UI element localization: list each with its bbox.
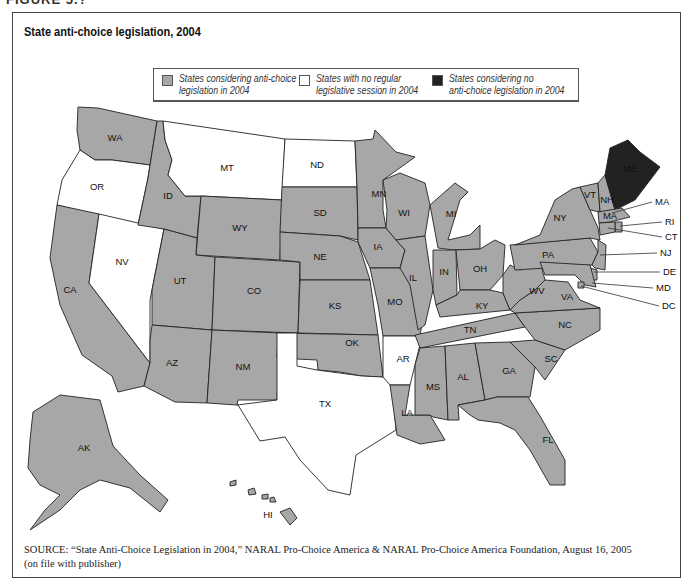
callout-label-ri: RI	[665, 216, 675, 227]
state-label-al: AL	[457, 371, 469, 382]
state-label-ms: MS	[426, 381, 440, 392]
state-hi-island	[248, 488, 256, 495]
state-label-mn: MN	[372, 188, 387, 199]
state-label-ks: KS	[329, 300, 342, 311]
state-label-va: VA	[561, 291, 574, 302]
source-text: “State Anti-Choice Legislation in 2004,”…	[68, 544, 632, 555]
state-label-ok: OK	[345, 337, 359, 348]
us-map: WAORCANVIDMTWYUTCOAZNMNDSDNEKSOKTXMNIAMO…	[0, 0, 694, 587]
state-label-me: ME	[623, 163, 637, 174]
state-label-tn: TN	[464, 324, 477, 335]
state-label-ak: AK	[78, 442, 91, 453]
state-label-oh: OH	[473, 263, 487, 274]
state-label-or: OR	[90, 181, 104, 192]
callout-line-dc	[581, 286, 659, 306]
state-label-in: IN	[439, 266, 449, 277]
state-label-ar: AR	[396, 353, 409, 364]
state-label-ma: MA	[603, 210, 618, 221]
callout-label-de: DE	[663, 266, 676, 277]
callout-line-ct	[608, 228, 662, 237]
state-mt	[163, 121, 285, 200]
state-label-ut: UT	[174, 275, 187, 286]
callout-line-md	[592, 283, 653, 288]
state-label-ky: KY	[476, 300, 489, 311]
state-label-mt: MT	[220, 162, 234, 173]
state-label-nh: NH	[600, 194, 614, 205]
state-label-wy: WY	[232, 222, 248, 233]
source-prefix: SOURCE:	[24, 544, 68, 555]
state-label-wv: WV	[529, 285, 545, 296]
state-label-sd: SD	[313, 207, 326, 218]
state-label-fl: FL	[542, 434, 553, 445]
state-label-wa: WA	[108, 132, 124, 143]
state-label-nd: ND	[310, 159, 324, 170]
state-hi-island	[270, 497, 276, 502]
state-label-wi: WI	[398, 207, 410, 218]
callout-label-md: MD	[656, 282, 671, 293]
state-label-ga: GA	[502, 365, 516, 376]
state-label-co: CO	[247, 285, 261, 296]
state-label-ca: CA	[63, 284, 77, 295]
state-hi-island	[262, 494, 268, 499]
state-label-vt: VT	[584, 189, 596, 200]
callout-line-nj	[600, 253, 657, 255]
callout-label-nj: NJ	[660, 247, 672, 258]
state-label-il: IL	[409, 272, 417, 283]
state-label-tx: TX	[319, 398, 332, 409]
state-label-mi: MI	[446, 208, 457, 219]
state-label-nm: NM	[236, 361, 251, 372]
state-label-hi: HI	[263, 509, 273, 520]
callout-label-ma: MA	[655, 196, 670, 207]
state-label-mo: MO	[387, 296, 402, 307]
source-note: SOURCE: “State Anti-Choice Legislation i…	[24, 543, 632, 571]
callout-label-ct: CT	[665, 231, 678, 242]
state-label-nv: NV	[115, 256, 129, 267]
callout-label-dc: DC	[662, 300, 676, 311]
state-label-ia: IA	[374, 241, 384, 252]
state-ak	[28, 395, 168, 530]
state-label-ny: NY	[553, 212, 567, 223]
state-label-nc: NC	[558, 319, 572, 330]
state-hi-island	[230, 480, 236, 486]
state-label-az: AZ	[166, 357, 178, 368]
state-label-id: ID	[163, 190, 173, 201]
source-text-2: (on file with publisher)	[24, 558, 121, 569]
state-dc	[578, 282, 584, 288]
callout-line-ri	[620, 222, 662, 226]
state-label-ne: NE	[313, 251, 326, 262]
state-label-sc: SC	[544, 353, 557, 364]
state-label-pa: PA	[542, 249, 555, 260]
state-label-la: LA	[401, 407, 413, 418]
state-hi	[280, 508, 297, 525]
